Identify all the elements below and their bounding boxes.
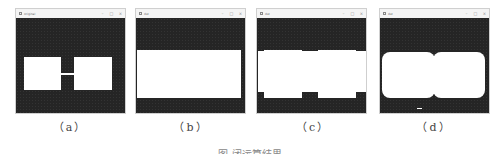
window-original[interactable]: original – □ ×: [15, 8, 126, 114]
right-rectangle: [74, 57, 112, 90]
top-right-block: [318, 50, 356, 98]
maximize-button[interactable]: □: [348, 11, 357, 16]
merged-rectangle: [137, 50, 241, 98]
app-icon: [383, 12, 386, 15]
app-icon: [19, 12, 22, 15]
window-title: original: [24, 12, 98, 16]
window-dst-b[interactable]: dst – □ ×: [135, 8, 246, 114]
right-rounded-shape: [433, 52, 485, 98]
maximize-button[interactable]: □: [227, 11, 236, 16]
middle-block: [302, 56, 318, 91]
window-dst-c[interactable]: dst – □ ×: [256, 8, 367, 114]
figure-caption: 图 闭运算结果: [160, 149, 340, 154]
minimize-button[interactable]: –: [98, 11, 107, 16]
thin-bridge: [61, 73, 74, 75]
close-button[interactable]: ×: [480, 11, 489, 16]
image-canvas: [257, 18, 366, 113]
image-canvas: [380, 18, 489, 113]
window-title: dst: [388, 12, 462, 16]
image-canvas: [16, 18, 125, 113]
window-dst-d[interactable]: dst – □ ×: [379, 8, 490, 114]
minimize-button[interactable]: –: [462, 11, 471, 16]
app-icon: [260, 12, 263, 15]
minimize-button[interactable]: –: [339, 11, 348, 16]
maximize-button[interactable]: □: [471, 11, 480, 16]
label-b: （b）: [161, 118, 221, 134]
window-title: dst: [265, 12, 339, 16]
close-button[interactable]: ×: [116, 11, 125, 16]
minimize-button[interactable]: –: [218, 11, 227, 16]
top-left-block: [264, 50, 302, 98]
label-a: （a）: [40, 118, 100, 134]
window-title: dst: [144, 12, 218, 16]
close-button[interactable]: ×: [357, 11, 366, 16]
small-artifact: [417, 108, 422, 109]
close-button[interactable]: ×: [236, 11, 245, 16]
maximize-button[interactable]: □: [107, 11, 116, 16]
label-d: （d）: [404, 118, 464, 134]
image-canvas: [136, 18, 245, 113]
app-icon: [139, 12, 142, 15]
label-c: （c）: [283, 118, 343, 134]
left-rectangle: [24, 57, 61, 90]
center-join: [428, 56, 440, 94]
